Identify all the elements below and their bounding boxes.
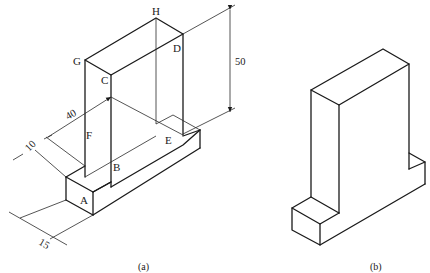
label-a: A [80, 194, 88, 206]
base-bottom-right [93, 148, 200, 215]
base-top-left [66, 166, 85, 177]
label-b: B [113, 161, 120, 173]
label-g: G [73, 55, 81, 67]
dimension-height-label: 50 [235, 56, 246, 67]
guide-f-back [85, 136, 156, 177]
wall-top-face [85, 18, 183, 75]
label-h: H [152, 5, 160, 17]
b-base-left-front [292, 208, 320, 245]
base-top-front [66, 177, 111, 192]
drawing-canvas: H D G C F B E A 50 40 10 15 (a) [0, 0, 430, 273]
guide-back-ridge [156, 115, 200, 130]
dimension-base-step-label: 10 [23, 138, 38, 153]
base-top-ridge [111, 130, 200, 187]
label-c: C [101, 74, 108, 86]
caption-b: (b) [370, 261, 382, 273]
dimension-40: 40 [44, 97, 111, 139]
b-base-left-top [292, 197, 339, 224]
label-f: F [86, 129, 92, 141]
base-top-front-long [93, 182, 111, 192]
guide-c-e [111, 97, 183, 135]
dimension-50: 50 [183, 5, 246, 134]
b-base-right-step [409, 162, 425, 169]
caption-a: (a) [138, 261, 149, 273]
label-d: D [173, 42, 181, 54]
dimension-base-width-label: 15 [37, 236, 52, 251]
b-top-face [311, 49, 409, 105]
label-e: E [165, 134, 172, 146]
dimension-10: 10 [13, 137, 85, 177]
figure-b-isometric-solid [292, 49, 425, 245]
